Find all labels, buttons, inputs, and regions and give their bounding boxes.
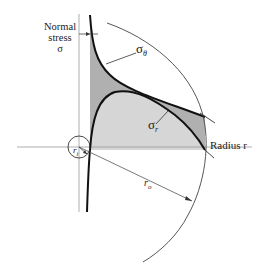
stress-diagram xyxy=(0,0,259,271)
sigma-theta-label: σθ xyxy=(136,42,147,58)
inner-radius-label: ri xyxy=(73,146,78,157)
sigma-theta-symbol: σ xyxy=(136,41,143,56)
outer-radius-dimension xyxy=(79,147,192,201)
sigma-r-label: σr xyxy=(148,118,158,134)
outer-radius-subscript: o xyxy=(148,183,152,191)
y-label-line1: Normal xyxy=(44,21,76,32)
sigma-theta-leader xyxy=(106,53,136,64)
sigma-theta-subscript: θ xyxy=(143,49,147,58)
y-label-line3: σ xyxy=(44,43,76,54)
y-axis-label: Normal stress σ xyxy=(44,21,76,54)
y-label-line2: stress xyxy=(44,32,76,43)
sigma-r-symbol: σ xyxy=(148,117,155,132)
inner-radius-subscript: i xyxy=(77,151,79,157)
sigma-r-subscript: r xyxy=(155,125,158,134)
outer-radius-arrow-icon xyxy=(185,196,192,201)
tangent-line-lower xyxy=(205,150,214,158)
outer-radius-label: ro xyxy=(144,178,151,191)
x-axis-label: Radius r xyxy=(210,140,247,151)
